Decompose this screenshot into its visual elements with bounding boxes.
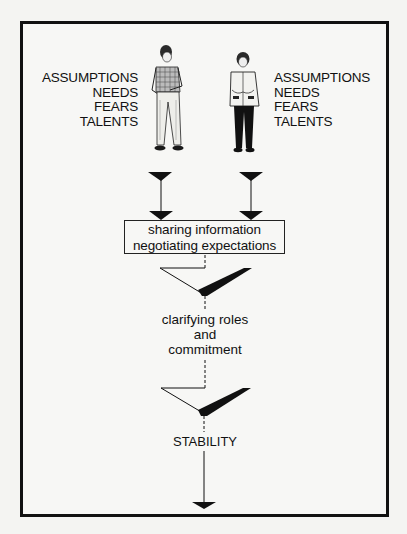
left-person-attributes: ASSUMPTIONS NEEDS FEARS TALENTS (42, 71, 138, 129)
stage-line-2: and (130, 327, 280, 342)
stage-line-3: commitment (130, 342, 280, 357)
stability-outcome: STABILITY (130, 434, 280, 449)
sharing-negotiating-box: sharing information negotiating expectat… (124, 220, 285, 254)
attribute-label: TALENTS (274, 115, 370, 130)
attribute-label: ASSUMPTIONS (274, 71, 370, 86)
attribute-label: FEARS (274, 100, 370, 115)
process-line-1: sharing information (125, 222, 284, 238)
left-input-arrow-icon (148, 172, 173, 220)
output-arrow-icon (192, 451, 216, 509)
right-person-attributes: ASSUMPTIONS NEEDS FEARS TALENTS (274, 71, 370, 129)
stage-line-1: clarifying roles (130, 312, 280, 327)
attribute-label: FEARS (42, 100, 138, 115)
process-line-2: negotiating expectations (125, 238, 284, 254)
check-valve-1-icon (160, 268, 252, 296)
check-valve-2-icon (161, 388, 251, 416)
attribute-label: NEEDS (42, 86, 138, 101)
attribute-label: ASSUMPTIONS (42, 71, 138, 86)
woman-figure-icon (230, 52, 259, 152)
attribute-label: TALENTS (42, 115, 138, 130)
right-input-arrow-icon (239, 172, 263, 220)
clarifying-roles-stage: clarifying roles and commitment (130, 312, 280, 357)
attribute-label: NEEDS (274, 86, 370, 101)
man-figure-icon (152, 45, 184, 151)
